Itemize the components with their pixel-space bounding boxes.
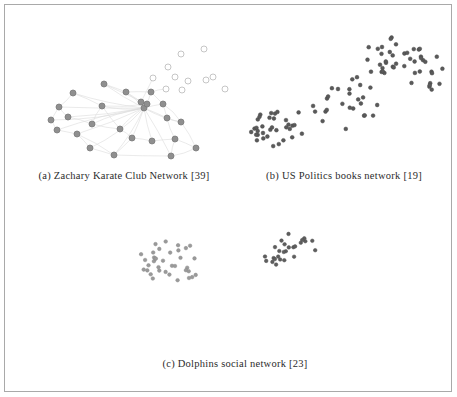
subfigure-a-caption: (a) Zachary Karate Club Network [39] — [16, 170, 232, 181]
subfigure-b-us-politics-books — [238, 10, 450, 160]
subfigure-c-dolphins-social — [120, 205, 360, 305]
subfigure-a-zachary-karate-club — [16, 10, 232, 160]
subfigure-b-caption: (b) US Politics books network [19] — [238, 170, 450, 181]
zachary-karate-club-graph — [16, 10, 232, 160]
dolphins-social-graph — [120, 205, 360, 305]
figure-container: (a) Zachary Karate Club Network [39] (b)… — [0, 0, 457, 397]
subfigure-c-caption: (c) Dolphins social network [23] — [110, 358, 360, 369]
us-politics-books-graph — [238, 10, 450, 160]
